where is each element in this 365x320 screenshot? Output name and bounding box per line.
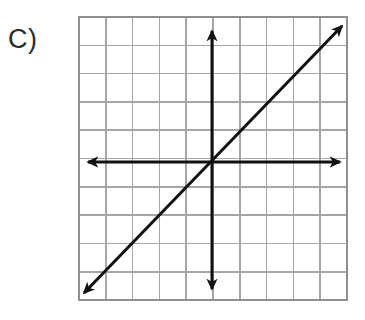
figure-container: C) (0, 0, 365, 320)
graph-svg (0, 0, 365, 320)
coordinate-plane (0, 0, 365, 320)
